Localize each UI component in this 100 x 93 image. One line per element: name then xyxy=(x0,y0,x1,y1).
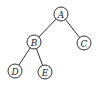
edges xyxy=(15,14,84,72)
node-label: D xyxy=(10,67,18,77)
binary-tree-diagram: ABCDE xyxy=(0,0,100,93)
node-label: E xyxy=(41,68,49,78)
node-b: B xyxy=(27,35,41,49)
node-d: D xyxy=(8,64,22,78)
nodes: ABCDE xyxy=(8,7,91,79)
node-c: C xyxy=(77,36,91,50)
node-e: E xyxy=(38,65,52,79)
node-a: A xyxy=(54,7,68,21)
node-label: B xyxy=(30,38,38,48)
node-label: A xyxy=(57,10,65,20)
node-label: C xyxy=(81,39,88,49)
